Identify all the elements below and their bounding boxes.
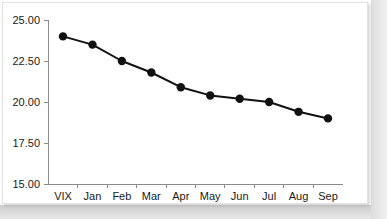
x-tick-label: Sep <box>318 190 338 202</box>
line-chart-plot: 25.0022.5020.0017.5015.00 VIXJanFebMarAp… <box>3 3 369 205</box>
y-axis: 25.0022.5020.0017.5015.00 <box>12 14 48 190</box>
y-tick-label: 15.00 <box>12 178 40 190</box>
y-tick-label-group: 25.0022.5020.0017.5015.00 <box>12 14 40 190</box>
chart-card: 25.0022.5020.0017.5015.00 VIXJanFebMarAp… <box>2 2 368 204</box>
data-point <box>265 98 273 106</box>
data-point <box>177 83 185 91</box>
x-tick-label: Feb <box>112 190 131 202</box>
y-tick-label: 25.00 <box>12 14 40 26</box>
data-point <box>88 40 96 48</box>
data-point <box>235 95 243 103</box>
x-tick-group <box>78 184 314 188</box>
y-tick-label: 20.00 <box>12 96 40 108</box>
x-tick-label: May <box>200 190 221 202</box>
y-tick-label: 22.50 <box>12 55 40 67</box>
y-tick-label: 17.50 <box>12 137 40 149</box>
x-tick-label: Mar <box>142 190 161 202</box>
series-line-vix <box>63 36 328 118</box>
data-point <box>147 68 155 76</box>
x-axis: VIXJanFebMarAprMayJunJulAugSep <box>48 184 343 202</box>
x-tick-label: Jul <box>262 190 276 202</box>
data-point <box>118 57 126 65</box>
data-point <box>324 114 332 122</box>
data-point <box>294 108 302 116</box>
x-tick-label: Aug <box>289 190 309 202</box>
x-tick-label: Jun <box>231 190 249 202</box>
x-tick-label: Apr <box>172 190 189 202</box>
y-tick-group <box>44 20 48 184</box>
x-tick-label: Jan <box>84 190 102 202</box>
page-right-edge <box>371 0 387 219</box>
data-point <box>59 32 67 40</box>
x-tick-label: VIX <box>54 190 72 202</box>
page-bottom-edge <box>0 205 387 219</box>
data-point <box>206 91 214 99</box>
x-tick-label-group: VIXJanFebMarAprMayJunJulAugSep <box>54 190 338 202</box>
chart-page: 25.0022.5020.0017.5015.00 VIXJanFebMarAp… <box>0 0 387 219</box>
data-series <box>59 32 332 122</box>
